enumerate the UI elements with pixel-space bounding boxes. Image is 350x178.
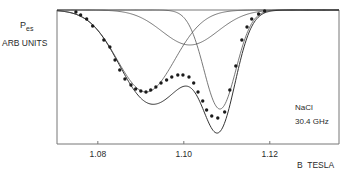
x-label: B TESLA [297,160,334,170]
fit-components [57,10,339,109]
data-point [85,17,88,20]
data-point [102,38,105,41]
data-point [154,85,157,88]
fit-total-curve [57,10,339,133]
data-point [187,75,190,78]
data-point [123,77,126,80]
data-point [210,114,213,117]
chart: 1.081.101.12 Pes ARB UNITS B TESLA NaCl … [0,0,350,178]
data-point [79,13,82,16]
data-point [181,73,184,76]
y-label-sub: es [26,25,34,32]
y-label-units: ARB UNITS [2,38,48,48]
data-point [113,58,116,61]
data-point [176,73,179,76]
x-tick-label: 1.10 [176,149,193,159]
data-point [245,25,248,28]
data-point [129,83,132,86]
data-point [159,81,162,84]
data-point [223,110,226,113]
x-tick-label: 1.08 [90,149,107,159]
data-point [144,90,147,93]
data-point [205,108,208,111]
data-point [257,12,260,15]
data-point [192,81,195,84]
data-point [240,38,243,41]
data-point [108,45,111,48]
data-point [234,64,237,67]
component-b-curve [57,10,339,109]
data-point [165,78,168,81]
data-point [196,90,199,93]
component-a-curve [57,10,339,92]
data-point [139,89,142,92]
data-point [216,116,219,119]
annotation-frequency: 30.4 GHz [295,117,329,126]
data-point [170,75,173,78]
y-label-symbol: Pes [20,20,34,32]
data-point [118,68,121,71]
data-point [149,88,152,91]
data-point [91,24,94,27]
data-point [250,17,253,20]
annotation-sample: NaCl [295,103,313,112]
data-point [134,87,137,90]
data-point [228,88,231,91]
data-point [263,9,266,12]
component-c-curve [57,10,339,45]
data-point [74,10,77,13]
data-point [201,99,204,102]
x-tick-label: 1.12 [262,149,279,159]
